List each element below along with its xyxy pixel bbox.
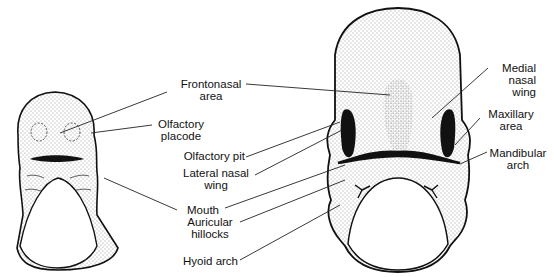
later-embryo-face: [327, 8, 470, 272]
label-frontonasal-area: Frontonasal area: [175, 78, 247, 102]
label-auricular-hillocks: Auricular hillocks: [184, 216, 236, 240]
label-line: nasal: [488, 74, 536, 86]
label-mandibular-arch: Mandibular arch: [486, 147, 550, 171]
label-mouth: Mouth: [182, 204, 224, 216]
label-line: Lateral nasal: [180, 167, 252, 179]
label-hyoid-arch: Hyoid arch: [168, 255, 238, 267]
embryo-face-diagram: Frontonasal area Olfactory placode Olfac…: [0, 0, 554, 277]
label-line: Maxillary: [482, 108, 540, 120]
label-line: placode: [152, 130, 210, 142]
label-line: wing: [180, 179, 252, 191]
label-olfactory-placode: Olfactory placode: [152, 118, 210, 142]
label-line: Olfactory: [152, 118, 210, 130]
label-line: wing: [488, 86, 536, 98]
label-maxillary-area: Maxillary area: [482, 108, 540, 132]
label-line: Medial: [488, 62, 536, 74]
label-line: area: [482, 120, 540, 132]
label-line: hillocks: [184, 228, 236, 240]
label-line: Frontonasal: [175, 78, 247, 90]
diagram-drawing: [0, 0, 554, 277]
early-embryo-face: [17, 92, 118, 270]
label-line: Mandibular: [486, 147, 550, 159]
label-line: area: [175, 90, 247, 102]
left-olfactory-pit: [341, 109, 356, 157]
label-lateral-nasal-wing: Lateral nasal wing: [180, 167, 252, 191]
right-olfactory-pit: [440, 109, 455, 157]
label-medial-nasal-wing: Medial nasal wing: [488, 62, 536, 98]
label-line: arch: [486, 159, 550, 171]
label-line: Auricular: [184, 216, 236, 228]
label-olfactory-pit: Olfactory pit: [170, 150, 245, 162]
